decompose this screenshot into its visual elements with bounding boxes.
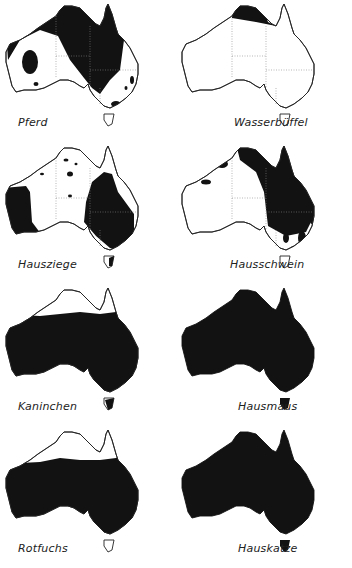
panel-label: Pferd (18, 116, 48, 129)
panel-label: Kaninchen (18, 400, 77, 413)
panel-label: Hauskatze (238, 542, 297, 555)
panel-label: Hausmaus (238, 400, 297, 413)
panel-label: Hausschwein (230, 258, 304, 271)
panel-label: Hausziege (18, 258, 77, 271)
map-panel-kaninchen: Kaninchen (0, 284, 176, 426)
map-panel-hausziege: Hausziege (0, 142, 176, 284)
map-panel-rotfuchs: Rotfuchs (0, 426, 176, 568)
panel-label: Rotfuchs (18, 542, 68, 555)
map-panel-pferd: Pferd (0, 0, 176, 142)
map-panel-hauskatze: Hauskatze (176, 426, 352, 568)
map-panel-hausschwein: Hausschwein (176, 142, 352, 284)
map-panel-wasserbueffel: Wasserbüffel (176, 0, 352, 142)
map-panel-hausmaus: Hausmaus (176, 284, 352, 426)
panel-label: Wasserbüffel (234, 116, 308, 129)
